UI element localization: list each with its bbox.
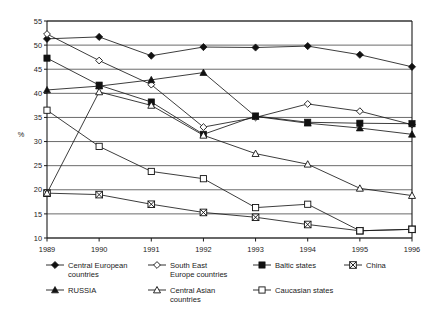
- svg-text:1989: 1989: [39, 245, 55, 254]
- svg-text:35: 35: [34, 113, 42, 122]
- svg-text:Central Asian: Central Asian: [170, 286, 215, 295]
- x-axis-tick-labels: 19891990199119921993199419951996: [39, 238, 420, 254]
- series-4: [44, 69, 416, 137]
- svg-text:countries: countries: [170, 295, 201, 304]
- svg-text:1995: 1995: [352, 245, 368, 254]
- svg-text:1990: 1990: [91, 245, 107, 254]
- svg-text:countries: countries: [68, 270, 99, 279]
- svg-text:1992: 1992: [195, 245, 211, 254]
- svg-text:South East: South East: [170, 261, 208, 270]
- svg-text:30: 30: [34, 137, 42, 146]
- svg-text:1991: 1991: [143, 245, 159, 254]
- legend-entry-2: Baltic states: [253, 261, 316, 270]
- svg-text:15: 15: [34, 210, 42, 219]
- svg-text:Caucasian states: Caucasian states: [275, 286, 333, 295]
- svg-text:25: 25: [34, 161, 42, 170]
- svg-text:1996: 1996: [404, 245, 420, 254]
- series-1: [44, 31, 416, 131]
- legend-entry-1: South EastEurope countries: [148, 261, 228, 280]
- svg-text:40: 40: [34, 89, 42, 98]
- svg-text:RUSSIA: RUSSIA: [68, 286, 97, 295]
- svg-text:1993: 1993: [247, 245, 263, 254]
- chart-legend: Central EuropeancountriesSouth EastEurop…: [46, 261, 387, 305]
- data-series-group: [43, 31, 415, 234]
- y-axis-title: %: [18, 130, 25, 139]
- svg-text:55: 55: [34, 17, 42, 26]
- line-chart: 10152025303540455055 1989199019911992199…: [0, 0, 433, 320]
- svg-text:50: 50: [34, 41, 42, 50]
- svg-text:10: 10: [34, 234, 42, 243]
- series-0: [43, 33, 415, 70]
- legend-entry-5: Central Asiancountries: [148, 286, 215, 305]
- svg-text:20: 20: [34, 185, 42, 194]
- svg-text:Baltic states: Baltic states: [275, 261, 316, 270]
- svg-text:China: China: [366, 261, 387, 270]
- svg-text:Central European: Central European: [68, 261, 128, 270]
- legend-entry-3: China: [344, 261, 387, 270]
- svg-text:1994: 1994: [299, 245, 315, 254]
- legend-entry-0: Central Europeancountries: [46, 261, 128, 280]
- chart-container: 10152025303540455055 1989199019911992199…: [0, 0, 433, 320]
- legend-entry-4: RUSSIA: [46, 286, 97, 295]
- legend-entry-6: Caucasian states: [253, 286, 333, 295]
- svg-text:45: 45: [34, 65, 42, 74]
- y-axis-tick-labels: 10152025303540455055: [34, 17, 47, 243]
- svg-text:%: %: [18, 130, 25, 139]
- svg-text:Europe countries: Europe countries: [170, 270, 228, 279]
